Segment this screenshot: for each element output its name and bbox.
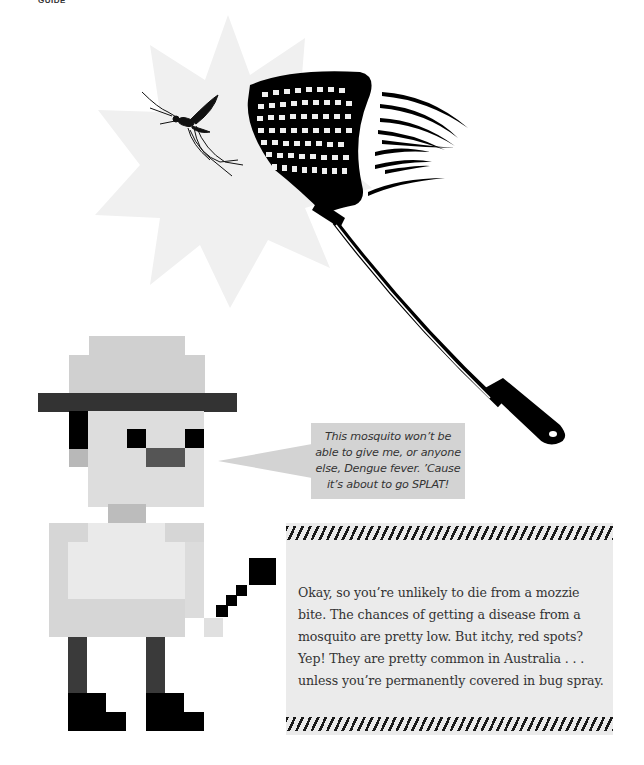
boot-left (68, 693, 106, 731)
shirt-bottom (68, 599, 185, 637)
right-eye (185, 429, 204, 448)
mini-swatter-handle-3 (236, 585, 247, 596)
info-box-bottom-stripe (286, 717, 613, 731)
hat-body (69, 355, 205, 393)
shoulder-left (49, 523, 88, 542)
leg-left (68, 637, 87, 694)
shirt-top (88, 523, 165, 542)
mini-swatter-head (249, 558, 276, 585)
info-box-top-stripe (286, 526, 613, 540)
shoulder-right (165, 523, 204, 542)
leg-right (146, 637, 165, 694)
speech-bubble: This mosquito won’t be able to give me, … (311, 423, 465, 499)
hat-brim (38, 393, 237, 412)
mouth (146, 448, 185, 467)
arm-left (49, 542, 68, 637)
mini-swatter-handle-1 (216, 605, 228, 617)
shirt (68, 542, 185, 599)
neck (108, 504, 146, 523)
motion-lines-icon (368, 92, 468, 196)
hair (69, 411, 88, 449)
speech-bubble-text: This mosquito won’t be able to give me, … (311, 429, 465, 493)
boot-left-toe (106, 712, 126, 731)
arm-right (185, 542, 204, 618)
mini-swatter-handle-2 (226, 595, 237, 606)
boot-right (146, 693, 184, 731)
info-box-text: Okay, so you’re unlikely to die from a m… (298, 582, 608, 692)
ear (69, 449, 88, 467)
hat-crown (89, 336, 185, 356)
left-eye (127, 429, 146, 448)
fly-swatter-icon (248, 71, 565, 444)
boot-right-toe (184, 712, 204, 731)
hand (204, 618, 223, 637)
